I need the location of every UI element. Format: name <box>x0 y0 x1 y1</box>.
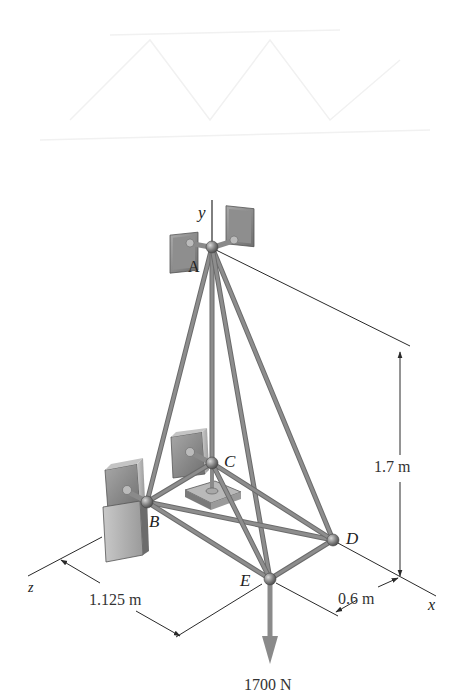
joint-label-d: D <box>345 529 359 548</box>
width-dimension-label: 1.125 m <box>89 591 142 608</box>
joint-a <box>206 241 218 253</box>
support-b <box>103 458 149 562</box>
joint-c <box>206 457 218 469</box>
joint-d <box>327 534 339 546</box>
truss-diagram: y <box>0 0 464 697</box>
z-axis-label: z <box>27 580 34 595</box>
joint-label-e: E <box>239 571 251 590</box>
depth-dimension-label: 0.6 m <box>338 590 375 607</box>
joint-label-b: B <box>149 512 160 531</box>
member-de <box>270 540 333 579</box>
y-axis-label: y <box>196 203 206 222</box>
height-dimension-label: 1.7 m <box>374 458 411 475</box>
x-axis-label: x <box>427 596 435 613</box>
joint-label-a: A <box>188 258 200 275</box>
truss-members <box>147 247 333 579</box>
dimension-lines <box>28 250 436 637</box>
background-ghost <box>40 30 430 140</box>
joint-label-c: C <box>224 452 236 471</box>
load-arrow: 1700 N <box>244 582 292 693</box>
joint-b <box>141 496 153 508</box>
member-ae <box>212 247 270 579</box>
load-label: 1700 N <box>244 676 292 693</box>
joint-e <box>264 573 276 585</box>
